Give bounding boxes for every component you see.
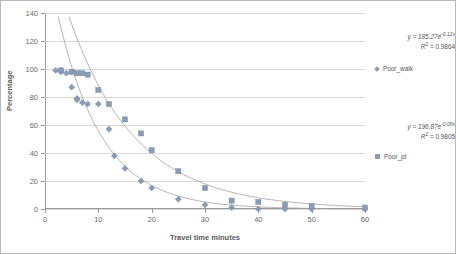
y-axis-title: Percentage (5, 71, 14, 111)
data-point-poor_pt (69, 69, 74, 74)
annotation-poor-walk: y = 185.27e-0.12x R2 = 0.9864 (375, 31, 455, 52)
data-point-poor_pt (122, 117, 127, 122)
r-squared-value: = 0.9864 (428, 44, 455, 51)
trendlines (58, 17, 365, 209)
x-tick-label: 10 (94, 215, 102, 224)
x-tick-label: 20 (147, 215, 155, 224)
legend-square-icon (375, 154, 380, 159)
legend-label-poor-walk: Poor_walk (383, 65, 413, 72)
data-point-poor_pt (256, 199, 261, 204)
data-point-poor_walk (111, 153, 117, 159)
data-point-poor_walk (95, 101, 101, 107)
y-tick-label: 20 (30, 177, 38, 186)
y-tick-label: 140 (25, 9, 38, 18)
data-point-poor_pt (149, 148, 154, 153)
data-point-poor_walk (149, 185, 155, 191)
data-point-poor_pt (80, 71, 85, 76)
data-layer (45, 13, 365, 209)
chart-figure: Percentage Travel time minutes 020406080… (0, 0, 456, 254)
data-point-poor_pt (106, 101, 111, 106)
data-point-poor_pt (282, 202, 287, 207)
data-point-poor_pt (362, 205, 367, 210)
data-point-poor_walk (69, 84, 75, 90)
x-tick-label: 30 (201, 215, 209, 224)
data-point-poor_pt (58, 68, 63, 73)
r-squared-poor-walk: R2 = 0.9864 (375, 41, 455, 51)
data-point-poor_pt (85, 72, 90, 77)
equation-text: y = 196.87e (408, 123, 442, 130)
equation-poor-pt: y = 196.87e-0.08x (375, 121, 455, 131)
x-tick-mark (98, 209, 99, 213)
data-point-poor_pt (309, 204, 314, 209)
legend-item-poor-walk[interactable]: Poor_walk (375, 65, 455, 72)
r-squared-poor-pt: R2 = 0.9805 (375, 131, 455, 141)
data-point-poor_pt (176, 169, 181, 174)
data-point-poor_walk (106, 126, 112, 132)
legend-item-poor-pt[interactable]: Poor_pt (375, 153, 455, 160)
x-tick-label: 40 (254, 215, 262, 224)
y-tick-label: 0 (34, 205, 38, 214)
equation-exponent: -0.12x (441, 31, 455, 37)
y-tick-label: 40 (30, 149, 38, 158)
equation-exponent: -0.08x (441, 121, 455, 127)
data-point-poor_pt (202, 185, 207, 190)
y-tick-label: 60 (30, 121, 38, 130)
data-point-poor_walk (79, 100, 85, 106)
equation-text: y = 185.27e (408, 33, 442, 40)
legend-diamond-icon (374, 66, 380, 72)
r-squared-value: = 0.9805 (428, 134, 455, 141)
data-point-poor_walk (63, 70, 69, 76)
data-point-poor_pt (96, 87, 101, 92)
x-tick-label: 50 (307, 215, 315, 224)
y-tick-label: 80 (30, 93, 38, 102)
annotation-poor-pt: y = 196.87e-0.08x R2 = 0.9805 (375, 121, 455, 142)
x-tick-mark (152, 209, 153, 213)
x-tick-mark (205, 209, 206, 213)
x-axis-title: Travel time minutes (45, 233, 365, 242)
data-point-poor_walk (138, 178, 144, 184)
data-point-poor_pt (229, 198, 234, 203)
x-tick-label: 60 (361, 215, 369, 224)
data-point-poor_pt (74, 71, 79, 76)
x-tick-label: 0 (43, 215, 47, 224)
trendline-poor_walk (58, 17, 365, 209)
data-point-poor_pt (138, 131, 143, 136)
legend-label-poor-pt: Poor_pt (384, 153, 406, 160)
x-tick-mark (45, 209, 46, 213)
data-markers (53, 67, 369, 212)
trendline-poor_pt (69, 17, 365, 207)
plot-area: 020406080100120140 0102030405060 (45, 13, 365, 209)
equation-poor-walk: y = 185.27e-0.12x (375, 31, 455, 41)
y-tick-label: 100 (25, 65, 38, 74)
data-point-poor_walk (85, 101, 91, 107)
data-point-poor_walk (122, 165, 128, 171)
y-tick-label: 120 (25, 37, 38, 46)
